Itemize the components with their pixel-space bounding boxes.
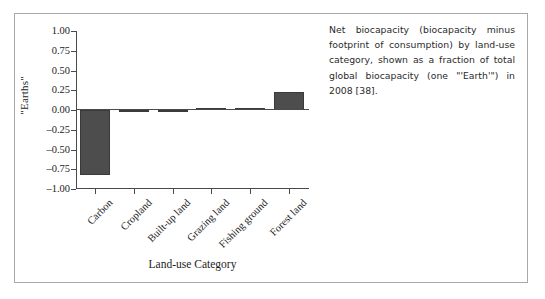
x-axis-tick — [173, 189, 174, 194]
y-axis-tick-label-text: –1.00 — [30, 184, 70, 194]
x-axis-tick — [134, 189, 135, 194]
zero-reference-line — [76, 109, 309, 110]
y-axis-tick-label-text: 0.25 — [30, 85, 70, 95]
y-axis-tick-label-text: –0.75 — [30, 164, 70, 174]
x-axis-title: Land-use Category — [76, 258, 309, 270]
x-axis-category-label: Cropland — [118, 197, 153, 232]
y-axis-tick — [71, 189, 76, 190]
bar — [80, 110, 110, 175]
y-axis-tick-label: –0.75 — [26, 164, 70, 174]
y-axis-tick-label-text: 1.00 — [30, 26, 70, 36]
x-axis-line — [76, 188, 309, 189]
y-axis-tick-label-text: 0.50 — [30, 66, 70, 76]
y-axis-tick-label: 0.25 — [26, 85, 70, 95]
bar — [119, 110, 149, 112]
x-axis-category-label: Forest land — [267, 197, 308, 238]
bar — [274, 92, 304, 110]
caption-text: Net biocapacity (biocapacity minus footp… — [329, 22, 515, 98]
y-axis-tick-label-text: –0.25 — [30, 125, 70, 135]
y-axis-tick-label-text: –0.50 — [30, 145, 70, 155]
figure-caption: Net biocapacity (biocapacity minus footp… — [329, 22, 515, 98]
y-axis-tick-label: 0.50 — [26, 66, 70, 76]
x-axis-tick — [250, 189, 251, 194]
figure-root: "Earths" 1.000.750.500.250.00–0.25–0.50–… — [0, 0, 545, 299]
x-axis-tick — [289, 189, 290, 194]
y-axis-tick-label: –0.25 — [26, 125, 70, 135]
y-axis-tick-label: –1.00 — [26, 184, 70, 194]
bar-chart: "Earths" 1.000.750.500.250.00–0.25–0.50–… — [0, 0, 320, 299]
y-axis-tick-label: –0.50 — [26, 145, 70, 155]
bar — [158, 110, 188, 112]
y-axis-line — [76, 31, 77, 189]
y-axis-tick-label-text: 0.75 — [30, 46, 70, 56]
x-axis-tick — [211, 189, 212, 194]
y-axis-tick-label: 0.00 — [26, 105, 70, 115]
x-axis-category-label: Carbon — [85, 197, 115, 227]
x-axis-tick — [95, 189, 96, 194]
y-axis-tick-label: 0.75 — [26, 46, 70, 56]
y-axis-tick-label: 1.00 — [26, 26, 70, 36]
y-axis-tick-label-text: 0.00 — [30, 105, 70, 115]
